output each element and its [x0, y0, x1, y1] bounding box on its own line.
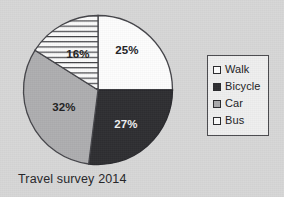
legend-item-label: Walk	[225, 64, 249, 75]
pie-label-bus: 16%	[66, 48, 89, 60]
pie-label-bicycle: 27%	[114, 118, 137, 130]
walk-swatch-icon	[213, 66, 221, 74]
chart-page: 25% 27% 32% 16% Travel survey 2014 Walk …	[0, 0, 284, 197]
chart-title: Travel survey 2014	[18, 172, 188, 186]
pie-label-car: 32%	[52, 101, 75, 113]
pie-chart-figure: 25% 27% 32% 16% Travel survey 2014 Walk …	[0, 0, 284, 197]
legend-item-walk[interactable]: Walk	[213, 61, 268, 78]
bus-swatch-icon	[213, 117, 221, 125]
legend-item-car[interactable]: Car	[213, 95, 268, 112]
legend-item-bus[interactable]: Bus	[213, 112, 268, 129]
pie-label-walk: 25%	[115, 44, 138, 56]
legend-item-bicycle[interactable]: Bicycle	[213, 78, 268, 95]
legend-item-label: Car	[225, 98, 243, 109]
car-swatch-icon	[213, 100, 221, 108]
legend-item-label: Bicycle	[225, 81, 261, 92]
chart-legend: Walk Bicycle Car Bus	[207, 55, 269, 136]
legend-item-label: Bus	[225, 115, 244, 126]
pie-chart-svg: 25% 27% 32% 16%	[14, 10, 186, 182]
bicycle-swatch-icon	[213, 83, 221, 91]
